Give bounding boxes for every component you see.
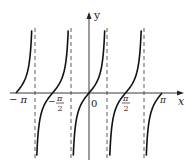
tick-label-neg-pi: − π [9, 94, 28, 105]
tan-branch [16, 30, 32, 93]
tick-label-neg-half-pi-den: 2 [58, 104, 63, 113]
tick-label-half-pi-num: π [122, 94, 129, 103]
tick-label-half-pi-den: 2 [124, 104, 129, 113]
origin-label: 0 [91, 98, 97, 109]
y-axis-label: y [93, 9, 101, 22]
y-axis-arrow-icon [87, 12, 92, 19]
tick-label-neg-half-pi-sign: − [48, 96, 56, 106]
x-axis-label: x [178, 95, 185, 108]
tick-label-neg-half-pi-num: π [56, 94, 63, 103]
tick-label-pi: π [159, 95, 167, 105]
tan-2x-graph: y x 0 − π − π 2 π 2 π [0, 0, 196, 166]
